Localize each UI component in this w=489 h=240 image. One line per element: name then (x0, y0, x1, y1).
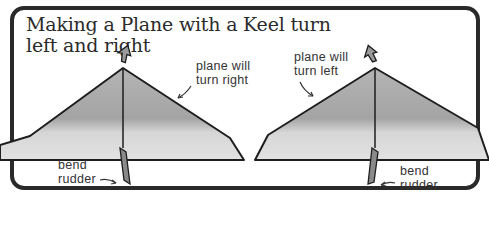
rudder-label-line: rudder (400, 178, 438, 192)
turn-right-pointer-icon (178, 86, 191, 98)
rudder-label-line: rudder (58, 172, 96, 186)
annotation-line: turn right (196, 73, 248, 87)
annotation-line: plane will (196, 59, 250, 73)
annotation-line: turn left (294, 64, 338, 78)
plane-right (255, 44, 489, 186)
annotation-turn-right: plane will turn right (196, 59, 250, 87)
annotation-line: plane will (294, 50, 348, 64)
rudder-label-line: bend (400, 164, 429, 178)
plane-left-direction-arrow-icon (116, 43, 134, 63)
annotation-turn-left: plane will turn left (294, 50, 348, 78)
plane-right-direction-arrow-icon (362, 44, 380, 64)
plane-right-wing (255, 68, 489, 160)
rudder-label-left: bend rudder (58, 158, 96, 186)
turn-left-pointer-icon (300, 82, 313, 96)
rudder-label-right: bend rudder (400, 164, 438, 192)
rudder-label-line: bend (58, 158, 87, 172)
